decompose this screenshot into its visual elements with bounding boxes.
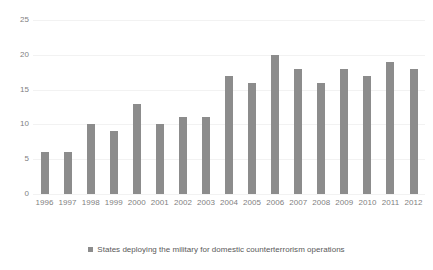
legend-swatch-icon bbox=[88, 247, 93, 252]
bar-slot bbox=[379, 20, 402, 194]
y-axis: 0510152025 bbox=[0, 20, 29, 194]
bar[interactable] bbox=[156, 124, 164, 194]
plot-area bbox=[33, 20, 425, 194]
y-tick-label: 10 bbox=[0, 120, 29, 128]
x-tick-label: 2001 bbox=[148, 196, 171, 210]
y-tick-label: 5 bbox=[0, 155, 29, 163]
x-tick-label: 2004 bbox=[218, 196, 241, 210]
bar-slot bbox=[148, 20, 171, 194]
y-tick-label: 20 bbox=[0, 51, 29, 59]
x-tick-label: 2003 bbox=[194, 196, 217, 210]
bar-slot bbox=[241, 20, 264, 194]
bar-series bbox=[33, 20, 425, 194]
x-tick-label: 2009 bbox=[333, 196, 356, 210]
bar[interactable] bbox=[41, 152, 49, 194]
bar-slot bbox=[310, 20, 333, 194]
bar[interactable] bbox=[340, 69, 348, 194]
bar[interactable] bbox=[133, 104, 141, 194]
bar[interactable] bbox=[87, 124, 95, 194]
bar[interactable] bbox=[64, 152, 72, 194]
legend-label: States deploying the military for domest… bbox=[97, 245, 344, 254]
bar-slot bbox=[333, 20, 356, 194]
x-axis: 1996199719981999200020012002200320042005… bbox=[33, 196, 425, 210]
x-tick-label: 2007 bbox=[287, 196, 310, 210]
bar[interactable] bbox=[386, 62, 394, 194]
x-tick-label: 2010 bbox=[356, 196, 379, 210]
x-tick-label: 2006 bbox=[264, 196, 287, 210]
bar[interactable] bbox=[225, 76, 233, 194]
x-tick-label: 2011 bbox=[379, 196, 402, 210]
bar[interactable] bbox=[271, 55, 279, 194]
bar[interactable] bbox=[294, 69, 302, 194]
bar-slot bbox=[194, 20, 217, 194]
x-tick-label: 2002 bbox=[171, 196, 194, 210]
bar-slot bbox=[125, 20, 148, 194]
bar[interactable] bbox=[202, 117, 210, 194]
y-tick-label: 15 bbox=[0, 86, 29, 94]
x-tick-label: 2008 bbox=[310, 196, 333, 210]
bar[interactable] bbox=[317, 83, 325, 194]
bar-slot bbox=[264, 20, 287, 194]
x-tick-label: 1999 bbox=[102, 196, 125, 210]
x-tick-label: 2000 bbox=[125, 196, 148, 210]
bar-slot bbox=[287, 20, 310, 194]
gridline bbox=[33, 194, 425, 195]
bar-slot bbox=[79, 20, 102, 194]
bar[interactable] bbox=[110, 131, 118, 194]
bar-slot bbox=[402, 20, 425, 194]
y-tick-label: 0 bbox=[0, 190, 29, 198]
x-tick-label: 1998 bbox=[79, 196, 102, 210]
bar[interactable] bbox=[248, 83, 256, 194]
x-tick-label: 2005 bbox=[241, 196, 264, 210]
bar[interactable] bbox=[179, 117, 187, 194]
x-tick-label: 1997 bbox=[56, 196, 79, 210]
bar-slot bbox=[33, 20, 56, 194]
bar-slot bbox=[356, 20, 379, 194]
x-tick-label: 2012 bbox=[402, 196, 425, 210]
bar[interactable] bbox=[363, 76, 371, 194]
bar-slot bbox=[218, 20, 241, 194]
bar-slot bbox=[56, 20, 79, 194]
bar-slot bbox=[171, 20, 194, 194]
bar[interactable] bbox=[410, 69, 418, 194]
bar-chart: 0510152025 19961997199819992000200120022… bbox=[0, 0, 433, 270]
chart-legend: States deploying the military for domest… bbox=[0, 245, 433, 254]
x-tick-label: 1996 bbox=[33, 196, 56, 210]
y-tick-label: 25 bbox=[0, 16, 29, 24]
bar-slot bbox=[102, 20, 125, 194]
